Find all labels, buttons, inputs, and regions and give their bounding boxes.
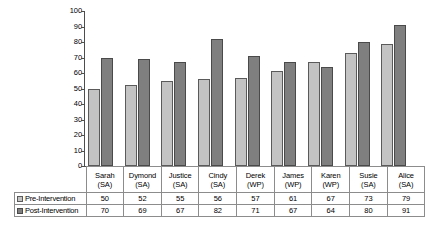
bar-pre-intervention bbox=[345, 53, 357, 166]
table-header-cell: James(WP) bbox=[274, 167, 312, 193]
table-cell-pre-value: 61 bbox=[274, 193, 312, 205]
bar-pre-intervention bbox=[271, 71, 283, 166]
bar-post-intervention bbox=[211, 39, 223, 166]
bar-group bbox=[195, 11, 232, 166]
legend-label-pre-intervention: Pre-Intervention bbox=[15, 193, 87, 205]
bar-group bbox=[378, 11, 415, 166]
table-header-site: (SA) bbox=[87, 180, 124, 189]
y-tick-mark-60 bbox=[81, 73, 84, 74]
y-tick-label-20: 20 bbox=[56, 131, 82, 139]
table-header-site: (SA) bbox=[350, 180, 387, 189]
y-tick-label-60: 60 bbox=[56, 69, 82, 77]
table-cell-post-value: 91 bbox=[387, 205, 425, 217]
legend-text-pre: Pre-Intervention bbox=[25, 194, 75, 203]
table-header-name: Dymond bbox=[124, 171, 161, 180]
y-tick-label-70: 70 bbox=[56, 54, 82, 62]
y-tick-mark-90 bbox=[81, 27, 84, 28]
bar-post-intervention bbox=[321, 67, 333, 166]
legend-swatch-post-icon bbox=[17, 208, 23, 214]
table-header-cell: Justice(SA) bbox=[161, 167, 199, 193]
bar-post-intervention bbox=[284, 62, 296, 166]
table-header-name: Justice bbox=[162, 171, 199, 180]
y-tick-mark-30 bbox=[81, 120, 84, 121]
bar-post-intervention bbox=[248, 56, 260, 166]
table-cell-pre-value: 67 bbox=[312, 193, 350, 205]
bars-layer bbox=[85, 11, 415, 166]
bar-pre-intervention bbox=[235, 78, 247, 166]
legend-text-post: Post-Intervention bbox=[25, 206, 78, 215]
table-cell-post-value: 70 bbox=[86, 205, 124, 217]
bar-post-intervention bbox=[138, 59, 150, 166]
table-header-site: (WP) bbox=[237, 180, 274, 189]
y-tick-label-50: 50 bbox=[56, 85, 82, 93]
bar-group bbox=[85, 11, 122, 166]
table-header-cell: Karen(WP) bbox=[312, 167, 350, 193]
table-row-pre-intervention: Pre-Intervention 505255565761677379 bbox=[15, 193, 425, 205]
table-header-cell: Alice(SA) bbox=[387, 167, 425, 193]
plot-region: 0102030405060708090100 bbox=[0, 0, 421, 176]
table-cell-pre-value: 57 bbox=[237, 193, 275, 205]
table-header-site: (WP) bbox=[312, 180, 349, 189]
table-cell-pre-value: 50 bbox=[86, 193, 124, 205]
bar-group bbox=[158, 11, 195, 166]
bar-pre-intervention bbox=[198, 79, 210, 166]
table-header-site: (SA) bbox=[162, 180, 199, 189]
y-tick-mark-80 bbox=[81, 42, 84, 43]
bar-pre-intervention bbox=[308, 62, 320, 166]
table-cell-pre-value: 56 bbox=[199, 193, 237, 205]
table-header-name: Alice bbox=[388, 171, 425, 180]
table-cell-post-value: 82 bbox=[199, 205, 237, 217]
y-tick-label-100: 100 bbox=[56, 7, 82, 15]
bar-post-intervention bbox=[394, 25, 406, 166]
table-corner-cell bbox=[15, 167, 87, 193]
y-axis-tick-labels: 0102030405060708090100 bbox=[56, 11, 82, 166]
table-row-post-intervention: Post-Intervention 706967827167648091 bbox=[15, 205, 425, 217]
table-cell-pre-value: 73 bbox=[350, 193, 388, 205]
y-tick-label-10: 10 bbox=[56, 147, 82, 155]
table-header-name: Cindy bbox=[199, 171, 236, 180]
y-tick-mark-20 bbox=[81, 135, 84, 136]
table-header-cell: Susie(SA) bbox=[350, 167, 388, 193]
table-cell-post-value: 64 bbox=[312, 205, 350, 217]
bar-group bbox=[305, 11, 342, 166]
table-header-cell: Cindy(SA) bbox=[199, 167, 237, 193]
bar-pre-intervention bbox=[381, 44, 393, 166]
table-header-name: Susie bbox=[350, 171, 387, 180]
table-header-site: (SA) bbox=[124, 180, 161, 189]
y-tick-label-90: 90 bbox=[56, 23, 82, 31]
table-header-cell: Sarah(SA) bbox=[86, 167, 124, 193]
table-cell-post-value: 67 bbox=[274, 205, 312, 217]
y-tick-label-80: 80 bbox=[56, 38, 82, 46]
data-table: Sarah(SA)Dymond(SA)Justice(SA)Cindy(SA)D… bbox=[14, 166, 425, 217]
y-tick-label-40: 40 bbox=[56, 100, 82, 108]
table-cell-pre-value: 79 bbox=[387, 193, 425, 205]
table-cell-pre-value: 52 bbox=[124, 193, 162, 205]
bar-pre-intervention bbox=[161, 81, 173, 166]
bar-group bbox=[232, 11, 269, 166]
bar-group bbox=[122, 11, 159, 166]
table-cell-post-value: 69 bbox=[124, 205, 162, 217]
table-header-name: Derek bbox=[237, 171, 274, 180]
bar-group bbox=[342, 11, 379, 166]
table-row-headers: Sarah(SA)Dymond(SA)Justice(SA)Cindy(SA)D… bbox=[15, 167, 425, 193]
table-header-name: Sarah bbox=[87, 171, 124, 180]
table-header-site: (SA) bbox=[388, 180, 425, 189]
y-tick-mark-10 bbox=[81, 151, 84, 152]
y-tick-mark-50 bbox=[81, 89, 84, 90]
table-header-site: (SA) bbox=[199, 180, 236, 189]
bar-post-intervention bbox=[101, 58, 113, 167]
y-tick-mark-70 bbox=[81, 58, 84, 59]
bar-post-intervention bbox=[174, 62, 186, 166]
table-cell-post-value: 67 bbox=[161, 205, 199, 217]
table-header-cell: Derek(WP) bbox=[237, 167, 275, 193]
y-tick-mark-40 bbox=[81, 104, 84, 105]
table-cell-post-value: 71 bbox=[237, 205, 275, 217]
table-header-site: (WP) bbox=[275, 180, 312, 189]
y-tick-label-30: 30 bbox=[56, 116, 82, 124]
table-header-name: Karen bbox=[312, 171, 349, 180]
legend-swatch-pre-icon bbox=[17, 196, 23, 202]
table-header-name: James bbox=[275, 171, 312, 180]
table-cell-pre-value: 55 bbox=[161, 193, 199, 205]
bar-pre-intervention bbox=[88, 89, 100, 167]
